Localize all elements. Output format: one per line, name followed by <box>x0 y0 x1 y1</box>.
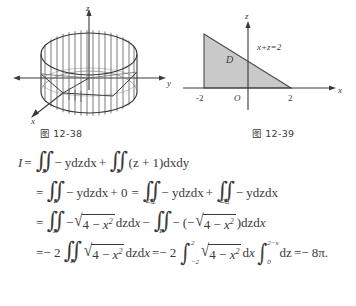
double-integral-glyph: ∬ <box>110 152 127 169</box>
exponent-2: 2 <box>230 217 234 226</box>
single-integral-glyph: ∫ <box>181 243 191 263</box>
integral-bounds-2: 2−x 0 <box>267 242 278 264</box>
double-integral-glyph: ∬ <box>217 182 234 199</box>
equals-minus-two-2: =− 2 <box>150 245 178 261</box>
figure-12-39-graphic: z x D x+z=2 O -2 2 <box>178 0 356 125</box>
integrand-2: (z + 1)dxdy <box>129 155 190 171</box>
radicand-1: 4 − x2 <box>82 214 115 232</box>
minus-sign-3: − <box>140 215 151 231</box>
figure-12-38: z y x 图 12-38 <box>0 0 178 148</box>
double-integral-3: ∬ Σ <box>46 182 65 205</box>
integrand-4: − ydzdx <box>161 185 203 201</box>
equals-sign-1: = <box>22 155 33 171</box>
plus-sign-2: + <box>204 185 215 201</box>
radical-sign-icon: √ <box>201 242 209 263</box>
differential-5: dz <box>280 245 292 261</box>
final-result: =− 8π. <box>292 245 330 261</box>
upper-limit-1: 2 <box>191 240 199 247</box>
sqrt-expression-3: √ 4 − x2 <box>84 244 124 262</box>
double-integral-glyph: ∬ <box>47 182 64 199</box>
double-integral-8: ∬ D <box>63 242 82 265</box>
double-integral-glyph: ∬ <box>47 212 64 229</box>
radicand-3: 4 − x2 <box>91 244 124 262</box>
plane-equation-label: x+z=2 <box>256 42 282 52</box>
single-integral-glyph: ∫ <box>257 243 267 263</box>
minus-paren-open: − (− <box>172 215 194 231</box>
sqrt-expression-1: √ 4 − x2 <box>74 214 114 232</box>
integrand-5: − ydzdx <box>236 185 278 201</box>
tick-label-2: 2 <box>288 93 293 103</box>
fig1-x-axis-label: x <box>30 116 35 125</box>
double-integral-5: ∬ Σ右 <box>216 182 235 205</box>
axes-3d <box>13 9 166 118</box>
equals-sign-3: = <box>34 215 45 231</box>
radicand-4: 4 − x2 <box>208 244 241 262</box>
minus-prefix-3: − <box>66 215 73 231</box>
region-D-label: D <box>225 54 234 65</box>
sqrt-expression-2: √ 4 − x2 <box>195 214 235 232</box>
double-integral-1: ∬ Σ <box>35 152 54 175</box>
double-integral-7: ∬ D <box>153 212 172 235</box>
fig2-z-axis-label: z <box>244 11 249 21</box>
fig1-z-axis-label: z <box>85 3 90 13</box>
exponent-1: 2 <box>109 217 113 226</box>
double-integral-6: ∬ D <box>46 212 65 235</box>
double-integral-4: ∬ Σ左 <box>142 182 161 205</box>
tick-label-minus-2: -2 <box>196 93 204 103</box>
origin-label: O <box>234 93 241 103</box>
fig2-x-axis-label: x <box>337 85 342 95</box>
equation-line-3: = ∬ D − √ 4 − x2 dzdx − ∬ D − (− √ 4 − x… <box>0 208 356 238</box>
differential-1: dzdx <box>116 215 141 231</box>
upper-limit-2: 2−x <box>267 240 278 247</box>
double-integral-glyph: ∬ <box>35 152 52 169</box>
equals-minus-two-1: =− 2 <box>34 245 62 261</box>
double-integral-glyph: ∬ <box>142 182 159 199</box>
single-integral-1: ∫ 2 −2 <box>179 241 199 265</box>
sqrt-expression-4: √ 4 − x2 <box>201 244 241 262</box>
radical-sign-icon: √ <box>195 212 203 233</box>
integrand-3: − ydzdx <box>66 185 108 201</box>
radical-sign-icon: √ <box>84 242 92 263</box>
plus-sign-1: + <box>97 155 108 171</box>
lower-limit-2: 0 <box>267 259 278 266</box>
double-integral-2: ∬ Σ <box>109 152 128 175</box>
radical-sign-icon: √ <box>74 212 82 233</box>
figure-12-39-caption: 图 12-39 <box>184 126 356 140</box>
double-integral-glyph: ∬ <box>64 242 81 259</box>
integral-bounds-1: 2 −2 <box>191 242 199 264</box>
exponent-3: 2 <box>118 247 122 256</box>
equals-sign-2b: = <box>129 185 140 201</box>
figures-row: z y x 图 12-38 z <box>0 0 356 148</box>
double-integral-glyph: ∬ <box>153 212 170 229</box>
differential-3: dzdx <box>125 245 150 261</box>
fig1-y-axis-label: y <box>166 78 171 88</box>
lower-limit-1: −2 <box>191 259 199 266</box>
radicand-2: 4 − x2 <box>203 214 236 232</box>
equation-line-1: I = ∬ Σ − ydzdx + ∬ Σ (z + 1)dxdy <box>0 148 356 178</box>
figure-12-38-caption: 图 12-38 <box>0 126 150 140</box>
equals-sign-2a: = <box>34 185 45 201</box>
equation-line-2: = ∬ Σ − ydzdx + 0 = ∬ Σ左 − ydzdx + ∬ Σ右 … <box>0 178 356 208</box>
integrand-1: − ydzdx <box>54 155 96 171</box>
single-integral-2: ∫ 2−x 0 <box>256 241 279 265</box>
differential-4: dx <box>242 245 254 261</box>
equation-line-4: =− 2 ∬ D √ 4 − x2 dzdx =− 2 ∫ 2 −2 √ 4 −… <box>0 238 356 268</box>
plus-zero-term: + 0 <box>108 185 129 201</box>
derivation-block: I = ∬ Σ − ydzdx + ∬ Σ (z + 1)dxdy = ∬ Σ … <box>0 148 356 268</box>
exponent-4: 2 <box>235 247 239 256</box>
differential-2: )dzdx <box>237 215 266 231</box>
figure-12-39: z x D x+z=2 O -2 2 图 12-39 <box>178 0 356 148</box>
figure-12-38-graphic: z y x <box>0 0 178 125</box>
